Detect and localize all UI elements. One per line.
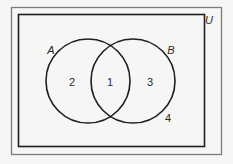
region-outside-label: 4 — [165, 113, 171, 124]
region-b-only-label: 3 — [147, 77, 153, 88]
set-b-label: B — [167, 45, 174, 56]
region-a-only-label: 2 — [69, 77, 75, 88]
outer-frame — [12, 8, 222, 155]
venn-diagram-graphic — [0, 0, 233, 164]
venn-diagram-figure: U A B 2 1 3 4 — [0, 0, 233, 164]
universal-set-label: U — [205, 15, 213, 26]
set-b-circle — [91, 39, 175, 123]
set-a-circle — [46, 39, 130, 123]
set-a-label: A — [47, 45, 54, 56]
region-a-and-b-label: 1 — [107, 77, 113, 88]
